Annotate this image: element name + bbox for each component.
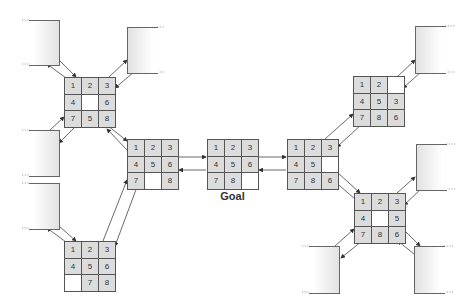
unexpanded-state-box xyxy=(29,183,59,228)
tile: 5 xyxy=(145,157,161,173)
tile: 3 xyxy=(388,94,404,110)
tile: 8 xyxy=(162,173,178,189)
tile: 2 xyxy=(145,140,161,156)
tile: 1 xyxy=(208,140,224,156)
unexpanded-state-box xyxy=(127,27,157,72)
tile: 2 xyxy=(372,194,388,210)
blank-tile xyxy=(82,95,98,111)
tile: 1 xyxy=(355,194,371,210)
puzzle-state-top-left: 1 2 3 4 6 7 5 8 xyxy=(64,77,116,128)
state-space-diagram: 1 2 3 4 6 7 5 8 1 2 3 4 5 6 7 8 1 2 3 4 … xyxy=(0,0,474,307)
tile: 6 xyxy=(242,157,258,173)
tile: 6 xyxy=(162,157,178,173)
tile: 5 xyxy=(225,157,241,173)
tile: 4 xyxy=(65,95,81,111)
tile: 6 xyxy=(99,259,115,275)
tile: 4 xyxy=(128,157,144,173)
tile: 7 xyxy=(288,173,304,189)
tile: 8 xyxy=(99,275,115,291)
tile: 2 xyxy=(82,78,98,94)
tile: 6 xyxy=(389,227,405,243)
tile: 7 xyxy=(82,275,98,291)
tile: 3 xyxy=(322,140,338,156)
tile: 8 xyxy=(305,173,321,189)
tile: 1 xyxy=(128,140,144,156)
tile: 5 xyxy=(82,259,98,275)
puzzle-state-top-right: 1 2 4 5 3 7 8 6 xyxy=(353,76,405,127)
tile: 7 xyxy=(128,173,144,189)
tile: 6 xyxy=(322,173,338,189)
blank-tile xyxy=(65,275,81,291)
tile: 4 xyxy=(65,259,81,275)
tile: 5 xyxy=(371,94,387,110)
tile: 7 xyxy=(354,110,370,126)
tile: 5 xyxy=(389,211,405,227)
unexpanded-state-box xyxy=(414,246,444,292)
tile: 4 xyxy=(208,157,224,173)
tile: 3 xyxy=(99,78,115,94)
tile: 8 xyxy=(225,173,241,189)
blank-tile xyxy=(145,173,161,189)
tile: 3 xyxy=(162,140,178,156)
unexpanded-state-box xyxy=(415,26,445,72)
tile: 1 xyxy=(65,242,81,258)
tile: 3 xyxy=(242,140,258,156)
tile: 2 xyxy=(371,77,387,93)
tile: 1 xyxy=(65,78,81,94)
tile: 4 xyxy=(355,211,371,227)
blank-tile xyxy=(242,173,258,189)
puzzle-state-goal: 1 2 3 4 5 6 7 8 xyxy=(207,139,259,190)
tile: 6 xyxy=(99,95,115,111)
tile: 7 xyxy=(65,111,81,127)
tile: 4 xyxy=(354,94,370,110)
unexpanded-state-box xyxy=(309,246,339,292)
tile: 5 xyxy=(305,157,321,173)
tile: 4 xyxy=(288,157,304,173)
tile: 1 xyxy=(288,140,304,156)
tile: 1 xyxy=(354,77,370,93)
tile: 8 xyxy=(371,110,387,126)
tile: 8 xyxy=(99,111,115,127)
goal-label: Goal xyxy=(207,190,258,202)
tile: 5 xyxy=(82,111,98,127)
blank-tile xyxy=(322,157,338,173)
tile: 2 xyxy=(305,140,321,156)
puzzle-state-center-left: 1 2 3 4 5 6 7 8 xyxy=(127,139,179,190)
blank-tile xyxy=(388,77,404,93)
tile: 3 xyxy=(99,242,115,258)
tile: 3 xyxy=(389,194,405,210)
tile: 6 xyxy=(388,110,404,126)
tile: 2 xyxy=(82,242,98,258)
unexpanded-state-box xyxy=(29,130,59,175)
tile: 2 xyxy=(225,140,241,156)
tile: 7 xyxy=(208,173,224,189)
puzzle-state-center-right: 1 2 3 4 5 7 8 6 xyxy=(287,139,339,190)
blank-tile xyxy=(372,211,388,227)
tile: 8 xyxy=(372,227,388,243)
puzzle-state-bottom-left: 1 2 3 4 5 6 7 8 xyxy=(64,241,116,292)
puzzle-state-bottom-right: 1 2 3 4 5 7 8 6 xyxy=(354,193,406,244)
unexpanded-state-box xyxy=(416,144,446,189)
tile: 7 xyxy=(355,227,371,243)
unexpanded-state-box xyxy=(29,20,59,64)
